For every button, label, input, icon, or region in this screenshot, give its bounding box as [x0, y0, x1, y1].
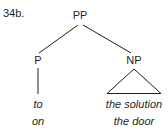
- syntax-tree-figure: 34b. PP P NP to on the solution the door: [0, 0, 168, 133]
- terminal-word-on: on: [32, 116, 44, 127]
- terminal-phrase-the-door: the door: [114, 116, 154, 127]
- np-triangle: [107, 69, 161, 94]
- terminal-word-to: to: [33, 99, 42, 110]
- node-label-np: NP: [126, 55, 141, 66]
- node-label-pp: PP: [73, 10, 88, 21]
- node-label-p: P: [34, 55, 41, 66]
- example-number-label: 34b.: [3, 8, 24, 19]
- terminal-phrase-the-solution: the solution: [106, 99, 162, 110]
- branch-pp-to-np: [83, 25, 131, 53]
- branch-pp-to-p: [39, 25, 78, 53]
